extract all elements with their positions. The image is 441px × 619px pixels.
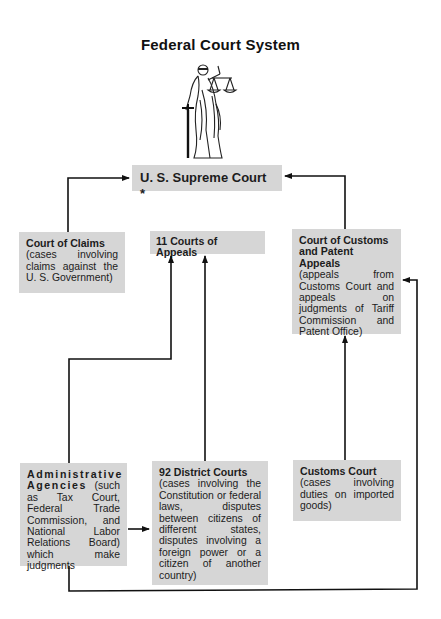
supreme-court-node: U. S. Supreme Court * xyxy=(132,165,282,191)
administrative-agencies-description: (such as Tax Court, Federal Trade Commis… xyxy=(27,480,120,571)
customs-patent-appeals-description: (appeals from Customs Court and appeals … xyxy=(299,269,394,337)
district-courts-label: 92 District Courts xyxy=(159,467,261,478)
courts-of-appeals-node: 11 Courts of Appeals xyxy=(150,231,265,254)
lady-justice-icon xyxy=(170,60,250,162)
court-of-claims-description: (cases involving claims against the U. S… xyxy=(26,249,118,283)
customs-court-label: Customs Court xyxy=(300,466,394,477)
administrative-agencies-node: Administrative Agencies (such as Tax Cou… xyxy=(20,463,127,566)
district-courts-node: 92 District Courts (cases involving the … xyxy=(152,461,268,585)
customs-court-node: Customs Court (cases involving duties on… xyxy=(293,460,401,521)
supreme-court-label: U. S. Supreme Court * xyxy=(140,170,266,201)
district-courts-description: (cases involving the Constitution or fed… xyxy=(159,478,261,581)
edge-ccpa-to-supreme xyxy=(285,176,345,229)
court-of-claims-label: Court of Claims xyxy=(26,238,118,249)
edge-claims-to-supreme xyxy=(68,178,129,232)
customs-patent-appeals-label: Court of Customs and Patent Appeals xyxy=(299,235,394,269)
diagram-title: Federal Court System xyxy=(0,36,441,53)
courts-of-appeals-label: 11 Courts of Appeals xyxy=(156,236,259,259)
customs-court-description: (cases involving duties on imported good… xyxy=(300,477,394,511)
customs-patent-appeals-node: Court of Customs and Patent Appeals (app… xyxy=(292,229,401,334)
court-of-claims-node: Court of Claims (cases involving claims … xyxy=(19,232,125,293)
